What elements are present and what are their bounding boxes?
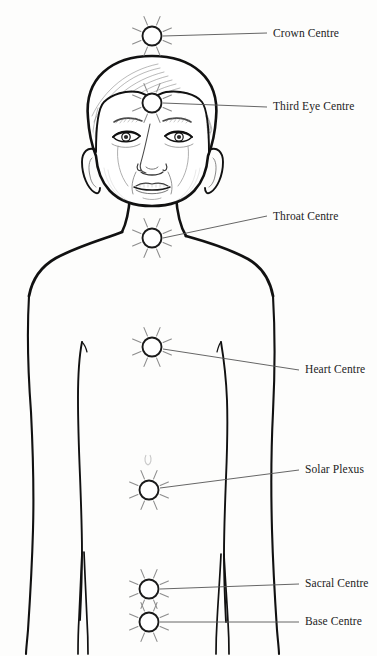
chakra-circle[interactable] <box>143 27 162 46</box>
chakra-label-solar-plexus: Solar Plexus <box>305 464 364 476</box>
chakra-label-third-eye: Third Eye Centre <box>273 101 354 113</box>
chakra-label-crown: Crown Centre <box>273 28 339 40</box>
body-diagram-svg <box>0 0 377 656</box>
chakra-circle[interactable] <box>140 580 159 599</box>
chakra-label-throat: Throat Centre <box>273 211 338 223</box>
chakra-label-heart: Heart Centre <box>305 364 365 376</box>
chakra-diagram-page: Crown CentreThird Eye CentreThroat Centr… <box>0 0 377 656</box>
chakra-label-sacral: Sacral Centre <box>305 578 369 590</box>
chakra-label-base: Base Centre <box>305 616 362 628</box>
chakra-circle[interactable] <box>143 229 162 248</box>
chakra-circle[interactable] <box>143 94 162 113</box>
chakra-circle[interactable] <box>140 613 159 632</box>
chakra-circle[interactable] <box>143 338 162 357</box>
chakra-circle[interactable] <box>140 481 159 500</box>
